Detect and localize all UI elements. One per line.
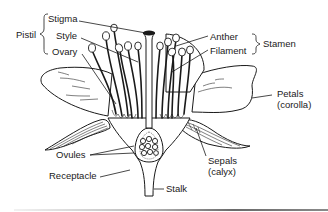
- bottom-rule: [14, 209, 328, 211]
- label-sepals-sub: (calyx): [208, 166, 236, 177]
- label-sepals: Sepals: [208, 155, 237, 166]
- label-stigma: Stigma: [48, 13, 78, 24]
- label-stamen: Stamen: [263, 38, 296, 49]
- label-petals: Petals: [277, 88, 304, 99]
- label-filament: Filament: [210, 45, 247, 56]
- label-ovules: Ovules: [56, 149, 86, 160]
- label-stalk: Stalk: [166, 183, 187, 194]
- petal-left: [41, 67, 112, 116]
- label-style: Style: [56, 30, 77, 41]
- ovules: [139, 136, 158, 155]
- label-pistil: Pistil: [16, 29, 36, 40]
- sepal-left: [45, 119, 110, 150]
- label-ovary: Ovary: [52, 46, 78, 57]
- label-receptacle: Receptacle: [49, 170, 97, 181]
- flower-diagram: Pistil Stigma Style Ovary Anther Filamen…: [0, 0, 328, 212]
- pistil-brace: [40, 14, 48, 54]
- label-anther: Anther: [210, 31, 238, 42]
- stamen-brace: [252, 34, 260, 54]
- style: [143, 33, 155, 128]
- label-petals-sub: (corolla): [277, 99, 311, 110]
